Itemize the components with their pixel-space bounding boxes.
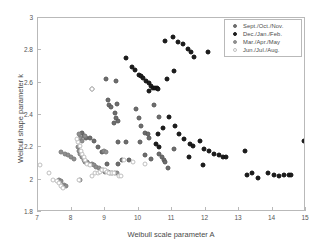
data-point xyxy=(266,171,271,176)
data-point xyxy=(163,38,168,43)
legend-marker-icon xyxy=(227,48,243,52)
y-tick-mark xyxy=(37,49,41,50)
y-tick-mark xyxy=(37,179,41,180)
data-point xyxy=(160,125,165,130)
data-point xyxy=(111,171,116,176)
x-tick-label: 14 xyxy=(268,214,275,221)
data-point xyxy=(156,114,161,119)
data-point xyxy=(71,156,76,161)
data-point xyxy=(112,121,117,126)
data-point xyxy=(181,137,186,142)
data-point xyxy=(173,124,178,129)
data-point xyxy=(95,145,100,150)
data-point xyxy=(143,161,148,166)
legend-item[interactable]: Dec./Jan./Feb. xyxy=(227,30,299,38)
weibull-scatter-figure: 789101112131415 1.822.22.42.62.83 Weibul… xyxy=(0,0,320,250)
data-point xyxy=(119,174,124,179)
legend-marker-icon xyxy=(227,32,243,36)
data-point xyxy=(163,159,168,164)
data-point xyxy=(200,163,205,168)
data-point xyxy=(152,103,157,108)
data-point xyxy=(147,88,152,93)
x-tick-mark xyxy=(205,207,206,211)
data-point xyxy=(109,104,114,109)
x-tick-mark xyxy=(71,207,72,211)
data-point xyxy=(171,69,176,74)
legend-label: Mar./Apr./May xyxy=(243,39,280,45)
data-point xyxy=(186,155,191,160)
data-point xyxy=(249,171,254,176)
x-tick-mark xyxy=(272,207,273,211)
legend-item[interactable]: Jun./Jul./Aug. xyxy=(227,46,299,54)
data-point xyxy=(198,138,203,143)
data-point xyxy=(155,132,160,137)
data-point xyxy=(243,148,248,153)
x-tick-label: 10 xyxy=(134,214,141,221)
data-point xyxy=(276,174,281,179)
data-point xyxy=(76,177,81,182)
data-point xyxy=(78,148,83,153)
legend: Sept./Oct./Nov.Dec./Jan./Feb.Mar./Apr./M… xyxy=(224,19,302,57)
data-point xyxy=(149,156,154,161)
x-axis-label: Weibull scale parameter A xyxy=(37,230,305,239)
data-point xyxy=(288,172,293,177)
x-tick-label: 13 xyxy=(234,214,241,221)
data-point xyxy=(155,87,160,92)
y-tick-mark xyxy=(37,146,41,147)
legend-item[interactable]: Sept./Oct./Nov. xyxy=(227,22,299,30)
data-point xyxy=(191,54,196,59)
x-tick-mark xyxy=(104,207,105,211)
legend-marker-icon xyxy=(227,24,243,28)
data-point xyxy=(74,137,79,142)
x-tick-label: 9 xyxy=(102,214,106,221)
data-point xyxy=(113,79,118,84)
data-point xyxy=(142,153,147,158)
data-point xyxy=(206,49,211,54)
data-point xyxy=(116,140,121,145)
legend-label: Jun./Jul./Aug. xyxy=(243,47,280,53)
x-tick-mark xyxy=(238,207,239,211)
data-point xyxy=(82,134,87,139)
data-point xyxy=(131,159,136,164)
data-point xyxy=(138,140,143,145)
legend-label: Dec./Jan./Feb. xyxy=(243,31,282,37)
data-point xyxy=(167,114,172,119)
data-point xyxy=(104,161,109,166)
x-tick-mark xyxy=(171,207,172,211)
data-point xyxy=(122,158,127,163)
y-tick-mark xyxy=(37,17,41,18)
y-tick-label: 3 xyxy=(11,14,33,21)
data-point xyxy=(87,163,92,168)
x-tick-mark xyxy=(305,207,306,211)
x-tick-label: 12 xyxy=(201,214,208,221)
legend-item[interactable]: Mar./Apr./May xyxy=(227,38,299,46)
x-tick-mark xyxy=(138,207,139,211)
data-point xyxy=(223,155,228,160)
data-point xyxy=(90,87,95,92)
data-point xyxy=(61,185,66,190)
x-tick-label: 7 xyxy=(35,214,39,221)
data-point xyxy=(123,56,128,61)
data-point xyxy=(104,150,109,155)
x-tick-label: 8 xyxy=(69,214,73,221)
data-point xyxy=(171,146,176,151)
data-point xyxy=(115,101,120,106)
legend-marker-icon xyxy=(227,40,243,44)
data-point xyxy=(165,166,170,171)
data-point xyxy=(137,116,142,121)
data-point xyxy=(139,124,144,129)
y-tick-mark xyxy=(37,82,41,83)
data-point xyxy=(256,176,261,181)
data-point xyxy=(123,140,128,145)
data-point xyxy=(190,143,195,148)
data-point xyxy=(134,106,139,111)
data-point xyxy=(302,138,304,143)
y-axis-label: Weibull shape parameter k xyxy=(16,39,25,199)
data-point xyxy=(170,35,175,40)
data-point xyxy=(103,77,108,82)
data-point xyxy=(177,132,182,137)
data-point xyxy=(38,163,42,168)
x-tick-label: 15 xyxy=(301,214,308,221)
data-point xyxy=(147,135,152,140)
y-tick-mark xyxy=(37,114,41,115)
